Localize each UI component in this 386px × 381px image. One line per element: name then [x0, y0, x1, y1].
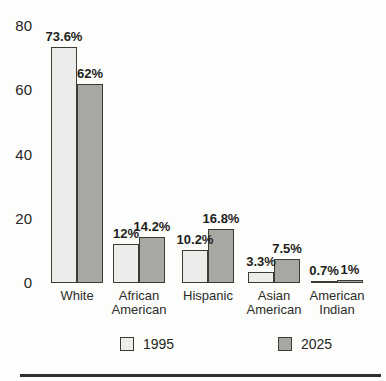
value-label-1995-asian-american: 3.3%: [246, 255, 276, 269]
value-label-2025-white: 62%: [77, 67, 103, 81]
value-label-2025-african-american: 14.2%: [134, 220, 171, 234]
value-label-1995-white: 73.6%: [46, 30, 83, 44]
bar-1995-african-american: [113, 244, 139, 283]
y-axis-tick-20: 20: [2, 211, 32, 227]
bar-1995-white: [51, 47, 77, 283]
bar-2025-american-indian: [337, 280, 363, 283]
category-label-african-american: African American: [103, 289, 175, 317]
y-axis-tick-40: 40: [2, 147, 32, 163]
legend-label-1995: 1995: [143, 337, 174, 352]
bar-2025-asian-american: [274, 259, 300, 283]
plot-area: 02040608073.6%62%White12%14.2%African Am…: [0, 0, 386, 381]
legend-label-2025: 2025: [301, 337, 332, 352]
value-label-2025-hispanic: 16.8%: [203, 212, 240, 226]
value-label-2025-american-indian: 1%: [341, 263, 360, 277]
category-label-asian-american: Asian American: [238, 289, 310, 317]
category-label-american-indian: American Indian: [301, 289, 373, 317]
bar-1995-asian-american: [248, 272, 274, 283]
value-label-1995-american-indian: 0.7%: [309, 264, 339, 278]
bottom-rule: [20, 374, 381, 377]
category-label-hispanic: Hispanic: [172, 289, 244, 303]
bar-2025-white: [77, 84, 103, 283]
y-axis-tick-60: 60: [2, 82, 32, 98]
bar-chart-figure: 02040608073.6%62%White12%14.2%African Am…: [0, 0, 386, 381]
bar-2025-african-american: [139, 237, 165, 283]
bar-1995-american-indian: [311, 281, 337, 283]
y-axis-tick-0: 0: [2, 275, 32, 291]
value-label-1995-hispanic: 10.2%: [177, 233, 214, 247]
bar-1995-hispanic: [182, 250, 208, 283]
y-axis-tick-80: 80: [2, 18, 32, 34]
value-label-2025-asian-american: 7.5%: [272, 242, 302, 256]
legend-swatch-1995: [120, 337, 134, 351]
legend-swatch-2025: [278, 337, 292, 351]
